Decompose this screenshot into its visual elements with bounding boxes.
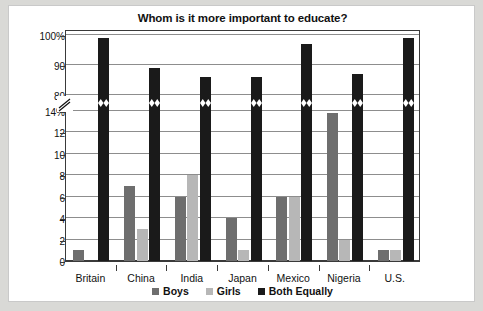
x-tick-mark [166,265,167,271]
bar-britain-both-equally [98,38,109,261]
bar-us-boys [378,250,389,261]
bar-break-marker [98,103,109,110]
bar-mexico-boys [276,197,287,261]
legend-item-boys[interactable]: Boys [152,285,189,297]
x-label-us: U.S. [384,272,404,284]
bar-break-marker-upper [352,98,363,103]
bar-break-marker [251,103,262,110]
bar-break-marker [200,103,211,110]
chart-frame: Whom is it more important to educate? 10… [8,5,475,302]
bar-nigeria-girls [339,240,350,261]
bar-us-girls [390,250,401,261]
plot-area [65,30,420,262]
bar-mexico-both-equally [301,44,312,261]
y-tick-label: 90 [17,61,65,72]
y-tick-label: 12 [17,128,65,139]
gridline [66,94,419,95]
y-tick-label: 100% [17,31,65,42]
chart-legend: BoysGirlsBoth Equally [9,285,476,297]
gridline [66,34,419,35]
legend-item-both-equally[interactable]: Both Equally [258,285,333,297]
x-label-nigeria: Nigeria [327,272,360,284]
y-tick-mark [60,262,65,263]
bar-break-marker-upper [200,98,211,103]
y-tick-label: 6 [17,192,65,203]
bar-break-marker [301,103,312,110]
y-tick-label: 80 [17,91,65,102]
x-tick-mark [268,265,269,271]
bar-china-girls [137,229,148,261]
y-axis: 100%908014%121086420 [9,30,65,262]
bar-break-marker [149,103,160,110]
bar-china-both-equally [149,68,160,261]
legend-label: Both Equally [269,285,333,297]
gridline [66,217,419,218]
x-label-japan: Japan [228,272,257,284]
y-tick-label: 4 [17,214,65,225]
bar-us-both-equally [403,38,414,261]
y-tick-label: 14% [17,107,65,118]
gridline [66,239,419,240]
bar-nigeria-boys [327,113,338,261]
bar-break-marker-upper [403,98,414,103]
y-tick-label: 0 [17,257,65,268]
y-tick-label: 8 [17,171,65,182]
gridline [66,64,419,65]
x-tick-mark [369,265,370,271]
bar-britain-boys [73,250,84,261]
bar-india-boys [175,197,186,261]
bar-break-marker-upper [149,98,160,103]
bar-china-boys [124,186,135,261]
gridline [66,174,419,175]
x-tick-mark [319,265,320,271]
bar-japan-both-equally [251,77,262,261]
bar-japan-girls [238,250,249,261]
chart-title: Whom is it more important to educate? [9,12,476,24]
x-label-britain: Britain [75,272,105,284]
legend-item-girls[interactable]: Girls [206,285,241,297]
bar-break-marker [403,103,414,110]
bar-india-girls [187,175,198,261]
gridline [66,131,419,132]
x-tick-mark [116,265,117,271]
bar-break-marker [352,103,363,110]
x-label-mexico: Mexico [277,272,310,284]
x-label-china: China [127,272,154,284]
gridline [66,110,419,111]
bar-india-both-equally [200,77,211,261]
bar-japan-boys [226,218,237,261]
y-tick-label: 10 [17,149,65,160]
legend-label: Boys [163,285,189,297]
bar-mexico-girls [289,197,300,261]
bar-break-marker-upper [98,98,109,103]
bar-break-marker-upper [251,98,262,103]
y-tick-label: 2 [17,235,65,246]
bar-break-marker-upper [301,98,312,103]
bar-nigeria-both-equally [352,74,363,261]
gridline [66,196,419,197]
legend-swatch-icon [258,288,265,295]
x-tick-mark [217,265,218,271]
x-label-india: India [180,272,203,284]
gridline [66,153,419,154]
x-axis-labels: BritainChinaIndiaJapanMexicoNigeriaU.S. [65,265,420,281]
legend-label: Girls [217,285,241,297]
legend-swatch-icon [152,288,159,295]
legend-swatch-icon [206,288,213,295]
